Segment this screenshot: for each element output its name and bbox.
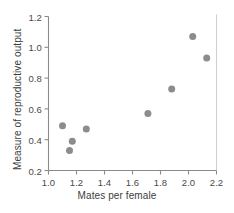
y-axis-tick-label: 0.2 (10, 165, 42, 176)
data-point (144, 110, 151, 117)
x-axis-tick-label: 1.6 (126, 177, 140, 188)
x-axis-tick-label: 1.0 (42, 177, 56, 188)
x-axis-title: Mates per female (0, 190, 234, 201)
data-point (189, 33, 196, 40)
data-point (203, 55, 210, 62)
y-axis-tick-label: 0.6 (10, 103, 42, 114)
x-axis-tick-label: 2.2 (210, 177, 224, 188)
scatter-plot-figure: Measure of reproductive output Mates per… (0, 0, 234, 213)
data-point (69, 138, 76, 145)
data-point (83, 125, 90, 132)
y-axis-tick-label: 0.4 (10, 134, 42, 145)
x-axis-tick-label: 1.2 (70, 177, 84, 188)
data-point (168, 85, 175, 92)
y-axis-tick-label: 1.2 (10, 11, 42, 22)
y-axis-tick-label: 1.0 (10, 42, 42, 53)
data-point (66, 147, 73, 154)
x-axis-tick-label: 1.4 (98, 177, 112, 188)
x-axis-tick-label: 2.0 (182, 177, 196, 188)
data-point (59, 122, 66, 129)
y-axis-tick-label: 0.8 (10, 73, 42, 84)
x-axis-tick-label: 1.8 (154, 177, 168, 188)
